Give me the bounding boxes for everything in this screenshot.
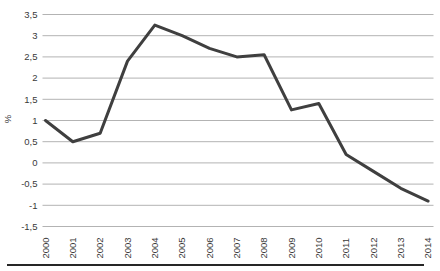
y-tick-label: 0 [32, 157, 37, 168]
line-chart-figure: % 3,532,521,510,50-0,5-1-1,5200020012002… [0, 0, 440, 271]
x-tick-label: 2002 [94, 237, 105, 258]
x-tick-label: 2006 [204, 237, 215, 258]
chart-canvas: 3,532,521,510,50-0,5-1-1,520002001200220… [0, 0, 440, 262]
x-tick-label: 2007 [231, 237, 242, 258]
x-tick-label: 2001 [67, 237, 78, 258]
x-tick-label: 2009 [286, 237, 297, 258]
x-tick-label: 2003 [122, 237, 133, 258]
y-tick-label: -1,5 [21, 221, 37, 232]
x-tick-label: 2014 [422, 237, 433, 258]
x-tick-label: 2011 [340, 238, 351, 258]
x-tick-label: 2010 [313, 237, 324, 258]
y-tick-label: -0,5 [21, 178, 37, 189]
data-line [46, 25, 429, 201]
x-tick-label: 2012 [368, 237, 379, 258]
y-tick-label: -1 [29, 200, 37, 211]
x-tick-label: 2005 [176, 237, 187, 258]
x-tick-label: 2008 [258, 237, 269, 258]
bottom-rule [7, 264, 424, 266]
x-tick-label: 2013 [395, 237, 406, 258]
y-tick-label: 2 [32, 72, 37, 83]
y-tick-label: 1 [32, 115, 37, 126]
y-tick-label: 3 [32, 30, 37, 41]
x-tick-label: 2000 [40, 237, 51, 258]
x-tick-label: 2004 [149, 237, 160, 258]
y-tick-label: 2,5 [24, 51, 37, 62]
y-tick-label: 0,5 [24, 136, 37, 147]
y-tick-label: 1,5 [24, 94, 37, 105]
y-tick-label: 3,5 [24, 9, 37, 20]
